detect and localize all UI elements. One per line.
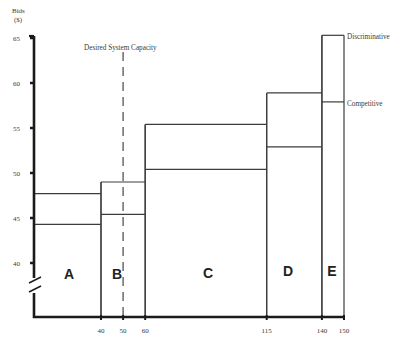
segment-label-b: B (112, 266, 122, 282)
y-axis-label-line: ($) (14, 16, 23, 24)
axis-break-mark (29, 286, 41, 292)
segment-c (145, 93, 267, 317)
segment-a (34, 182, 101, 317)
axes (29, 36, 345, 317)
y-tick-label: 50 (13, 170, 21, 178)
y-tick-label: 40 (13, 260, 21, 268)
x-tick-label: 150 (339, 327, 350, 335)
x-tick-label: 50 (120, 327, 128, 335)
x-tick-label: 40 (98, 327, 106, 335)
segment-labels: ABCDE (64, 263, 337, 282)
segment-label-e: E (327, 263, 336, 279)
legend: DiscriminativeCompetitive (347, 33, 390, 108)
legend-competitive: Competitive (347, 100, 383, 108)
x-tick-label: 140 (317, 327, 328, 335)
segment-d (267, 35, 322, 317)
segment-label-a: A (64, 266, 74, 282)
x-tick-label: 60 (142, 327, 150, 335)
y-tick-label: 60 (13, 80, 21, 88)
y-tick-label: 65 (13, 35, 21, 43)
segment-label-c: C (203, 265, 213, 281)
y-axis-ticks: 656055504540 (13, 35, 34, 268)
y-axis-label: Bids($) (12, 7, 25, 24)
y-tick-label: 55 (13, 125, 21, 133)
segment-label-d: D (283, 263, 293, 279)
segment-bars (34, 35, 344, 317)
axis-lines (34, 36, 345, 317)
y-tick-label: 45 (13, 215, 21, 223)
bids-step-chart: Bids($) 656055504540 Desired System Capa… (0, 0, 409, 347)
legend-discriminative: Discriminative (347, 33, 390, 41)
y-axis-label-line: Bids (12, 7, 25, 15)
annotation-text: Desired System Capacity (84, 44, 157, 52)
x-tick-label: 115 (262, 327, 273, 335)
